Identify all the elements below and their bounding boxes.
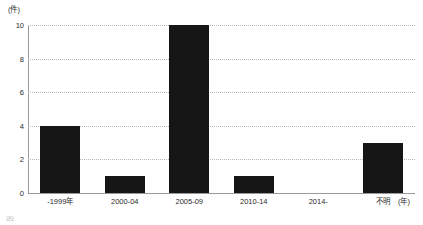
bar-slot[interactable] <box>351 25 416 193</box>
y-axis-tick-label: 6 <box>20 89 24 97</box>
x-axis-unit-label: (年) <box>398 196 410 207</box>
x-axis-tick-label: -1999年 <box>28 196 93 208</box>
x-axis-tick-label: 2010-14 <box>222 196 287 208</box>
y-axis-tick-label: 2 <box>20 156 24 164</box>
bar-slot[interactable] <box>28 25 93 193</box>
bar-slot[interactable] <box>93 25 158 193</box>
plot-area: 0246810 <box>28 25 415 193</box>
y-axis-tick-label: 4 <box>20 123 24 131</box>
x-axis-tick-label: 2005-09 <box>157 196 222 208</box>
x-axis-tick-label-group: -1999年2000-042005-092010-142014-不明 <box>28 196 415 208</box>
bar-group <box>28 25 415 193</box>
x-axis-tick-label: 2000-04 <box>93 196 158 208</box>
bar[interactable] <box>40 126 80 193</box>
x-axis-tick-label: 2014- <box>286 196 351 208</box>
y-axis-tick-label: 10 <box>16 22 24 30</box>
bar[interactable] <box>234 176 274 193</box>
y-axis-tick-label: 8 <box>20 56 24 64</box>
bar-slot[interactable] <box>222 25 287 193</box>
bar-slot[interactable] <box>157 25 222 193</box>
figure-caption-text: 図 <box>6 216 14 223</box>
bar[interactable] <box>105 176 145 193</box>
bar-chart-figure: (件) 0246810 -1999年2000-042005-092010-142… <box>0 0 423 225</box>
y-axis-tick-label: 0 <box>20 190 24 198</box>
gridline: 0 <box>28 193 415 194</box>
bar[interactable] <box>363 143 403 193</box>
figure-caption-clipped: 図 <box>0 216 423 225</box>
bar-slot[interactable] <box>286 25 351 193</box>
bar[interactable] <box>169 25 209 193</box>
y-axis-unit-label: (件) <box>8 5 20 14</box>
